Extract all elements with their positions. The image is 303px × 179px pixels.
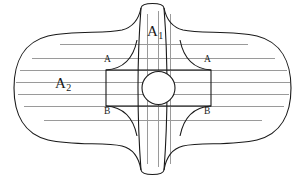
label-corner-bottom-left: B (104, 107, 110, 117)
label-vertical-channel: A1 (147, 24, 163, 39)
vertical-wall-left (138, 8, 141, 170)
label-horizontal-channel-subscript: 2 (66, 82, 71, 93)
label-corner-bottom-right: B (204, 107, 210, 117)
corner-fillet-bottom-left (106, 106, 137, 136)
label-corner-top-right: A (204, 55, 211, 65)
label-corner-top-left: A (104, 55, 111, 65)
vertical-channel-cap-bottom (141, 170, 164, 175)
figure-container: A1 A2 A A B B (0, 0, 303, 179)
vertical-channel-cap-top (141, 4, 164, 9)
label-horizontal-channel-base: A (55, 75, 66, 91)
label-vertical-channel-base: A (147, 23, 158, 39)
outer-boundary-upper-left (14, 8, 141, 88)
outer-boundary-lower-right (164, 88, 291, 170)
central-circle-obstacle (142, 72, 175, 105)
outer-boundary-lower-left (14, 88, 141, 170)
label-horizontal-channel: A2 (55, 76, 71, 91)
label-vertical-channel-subscript: 1 (158, 30, 163, 41)
outer-boundary-upper-right (164, 8, 291, 88)
